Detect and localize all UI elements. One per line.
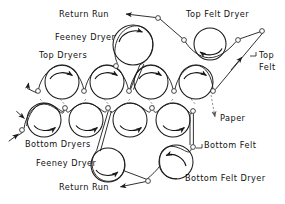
guide-roll-bottom-2[interactable] [106, 106, 111, 111]
guide-roll-top-4[interactable] [172, 89, 177, 94]
paper-seg-6 [148, 99, 154, 106]
paper-seg-4 [104, 99, 110, 106]
top-felt-entry-arrow [28, 83, 29, 89]
top-felt-direction-arrow [231, 57, 242, 70]
rotation-arrow-top-felt-dryer [200, 49, 222, 55]
guide-roll-top-felt-right[interactable] [236, 38, 241, 43]
paper-seg-8 [191, 99, 196, 105]
rotation-arrow-bottom-felt-dryer [166, 154, 186, 166]
guide-roll-bottom-left[interactable] [20, 128, 25, 133]
bottom-return-run-line [120, 182, 145, 187]
top-dryer-2[interactable] [90, 65, 124, 99]
top-return-run-line [126, 14, 156, 18]
top-felt-leader [250, 52, 256, 56]
rotation-arrow-bottom-dryer-2 [76, 126, 98, 131]
guide-roll-bottom-1[interactable] [63, 106, 68, 111]
bottom-dryer-1[interactable] [27, 103, 61, 137]
bottom-felt-entry-tail [14, 132, 22, 137]
label-feeney-dryer-top: Feeney Dryer [55, 32, 116, 42]
guide-roll-top-felt-left[interactable] [182, 38, 187, 43]
rotation-arrow-bottom-dryer-4 [163, 126, 185, 131]
paper-seg-2 [60, 99, 66, 106]
bottom-felt-out-left [147, 167, 160, 180]
diagram-labels: Return Run Top Felt Dryer Feeney Dryer T… [25, 9, 276, 192]
rotation-arrow-top-dryer-2 [95, 73, 118, 79]
top-dryer-3[interactable] [134, 65, 168, 99]
rotation-arrow-top-dryer-4 [184, 73, 207, 79]
bottom-felt-dryer1-arc [27, 103, 64, 126]
top-felt-entry-tail [28, 89, 37, 93]
guide-roll-bottom-4[interactable] [191, 109, 196, 114]
label-return-run-top: Return Run [59, 9, 109, 19]
rotation-arrow-feeney-top [119, 31, 143, 42]
rotation-arrow-feeney-bottom [96, 170, 118, 175]
label-leaders [196, 52, 256, 148]
feeney-bottom-return-leg [124, 171, 148, 180]
top-dryer-4[interactable] [179, 65, 213, 99]
top-felt-circuit [126, 14, 262, 90]
feeney-dryer-bottom-group [92, 111, 147, 182]
guide-roll-top-return[interactable] [156, 16, 161, 21]
top-felt-dryer2-wrap [85, 65, 128, 89]
guide-roll-top-3[interactable] [127, 89, 132, 94]
paper-seg-1 [40, 99, 44, 103]
top-felt-dryer3-wrap [130, 65, 173, 89]
top-felt-to-corner [240, 32, 260, 39]
rotation-arrow-top-dryer-1 [50, 73, 73, 79]
guide-roll-top-1[interactable] [36, 89, 41, 94]
label-return-run-bottom: Return Run [59, 182, 109, 192]
label-bottom-felt-dryer: Bottom Felt Dryer [185, 173, 266, 183]
bottom-felt-entry-arrow-1 [16, 111, 24, 118]
guide-roll-bottom-return[interactable] [146, 179, 151, 184]
label-top-dryers: Top Dryers [38, 50, 87, 60]
guide-roll-top-felt-corner[interactable] [260, 29, 265, 34]
top-dryer-1[interactable] [45, 65, 79, 99]
guide-roll-top-2[interactable] [82, 89, 87, 94]
bottom-felt-entry-arrow-2 [9, 134, 19, 141]
label-top-felt-line1: Top [258, 50, 274, 60]
label-feeney-dryer-bottom: Feeney Dryer [36, 158, 97, 168]
label-paper: Paper [220, 113, 246, 123]
label-bottom-dryers: Bottom Dryers [25, 139, 91, 149]
bottom-dryer-3[interactable] [113, 103, 147, 137]
label-bottom-felt: Bottom Felt [204, 140, 257, 150]
bottom-dryer-2[interactable] [69, 103, 103, 137]
dryer-section-diagram: Return Run Top Felt Dryer Feeney Dryer T… [0, 0, 285, 204]
bottom-dryer-4[interactable] [156, 103, 190, 137]
paper-exit-arrow [211, 95, 215, 117]
rotation-arrow-top-dryer-3 [139, 73, 162, 79]
top-felt-run-to-dryer [160, 19, 182, 38]
guide-roll-bottom-felt-corner[interactable] [191, 145, 196, 150]
bottom-felt-dryer1-wrap [24, 104, 64, 128]
guide-roll-feeney-top[interactable] [114, 64, 119, 69]
guide-roll-top-5[interactable] [211, 89, 216, 94]
label-top-felt-line2: Felt [259, 62, 276, 72]
label-top-felt-dryer: Top Felt Dryer [185, 9, 249, 19]
guide-roll-bottom-3[interactable] [150, 106, 155, 111]
bottom-felt-leader [196, 144, 202, 148]
rotation-arrow-bottom-dryer-1 [34, 126, 56, 131]
diagram-canvas: Return Run Top Felt Dryer Feeney Dryer T… [0, 0, 285, 204]
rotation-arrow-bottom-dryer-3 [120, 126, 142, 131]
